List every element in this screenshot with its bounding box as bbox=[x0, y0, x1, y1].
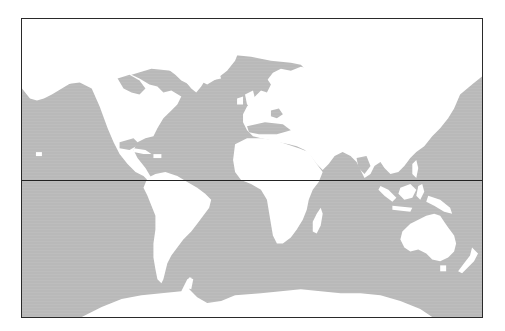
equator-line bbox=[22, 180, 482, 181]
hispaniola bbox=[153, 154, 161, 158]
hawaii bbox=[36, 152, 42, 156]
world-map bbox=[21, 18, 483, 318]
map-svg bbox=[22, 19, 482, 317]
tasmania bbox=[440, 265, 446, 271]
